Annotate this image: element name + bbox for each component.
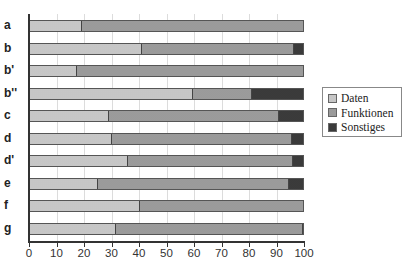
bar-segment-sonstiges bbox=[278, 111, 303, 121]
bar-segment-funktionen bbox=[115, 224, 302, 234]
bar-segment-funktionen bbox=[141, 44, 294, 54]
legend-swatch-daten-icon bbox=[328, 94, 337, 103]
category-label: f bbox=[4, 198, 22, 212]
bar-segment-funktionen bbox=[127, 156, 292, 166]
bar-segment-funktionen bbox=[76, 66, 303, 76]
x-tick-label: 10 bbox=[42, 247, 72, 259]
bar-c bbox=[29, 110, 304, 122]
bar-segment-daten bbox=[30, 21, 81, 31]
bar-segment-funktionen bbox=[108, 111, 279, 121]
legend-label: Daten bbox=[341, 92, 368, 104]
bar-f bbox=[29, 200, 304, 212]
bar-segment-daten bbox=[30, 179, 97, 189]
bar-segment-sonstiges bbox=[293, 44, 303, 54]
x-tick-label: 90 bbox=[262, 247, 292, 259]
bar-segment-daten bbox=[30, 134, 111, 144]
x-tick-label: 70 bbox=[207, 247, 237, 259]
bar-segment-sonstiges bbox=[302, 224, 303, 234]
x-tick-label: 100 bbox=[289, 247, 319, 259]
bar-dp bbox=[29, 155, 304, 167]
category-label: b bbox=[4, 41, 22, 55]
category-label: a bbox=[4, 18, 22, 32]
category-label: e bbox=[4, 176, 22, 190]
legend-item-funktionen: Funktionen bbox=[328, 106, 401, 121]
bar-g bbox=[29, 223, 304, 235]
x-tick-label: 0 bbox=[14, 247, 44, 259]
legend-item-daten: Daten bbox=[328, 91, 401, 106]
category-label: b'' bbox=[4, 86, 22, 100]
bar-b bbox=[29, 43, 304, 55]
legend-swatch-funktionen-icon bbox=[328, 108, 337, 117]
bar-segment-daten bbox=[30, 156, 127, 166]
bar-segment-daten bbox=[30, 89, 192, 99]
bar-d bbox=[29, 133, 304, 145]
stacked-bar-chart: 0102030405060708090100 Daten Funktionen … bbox=[0, 0, 410, 271]
y-axis bbox=[28, 14, 30, 242]
bar-segment-sonstiges bbox=[288, 179, 303, 189]
bar-segment-daten bbox=[30, 224, 115, 234]
x-tick-label: 80 bbox=[234, 247, 264, 259]
bar-segment-daten bbox=[30, 66, 76, 76]
bar-segment-funktionen bbox=[97, 179, 288, 189]
bar-segment-sonstiges bbox=[251, 89, 303, 99]
legend-swatch-sonstiges-icon bbox=[328, 123, 337, 132]
bar-segment-sonstiges bbox=[291, 134, 303, 144]
category-label: b' bbox=[4, 63, 22, 77]
x-tick-label: 20 bbox=[69, 247, 99, 259]
x-tick-label: 30 bbox=[97, 247, 127, 259]
x-tick-label: 40 bbox=[124, 247, 154, 259]
legend: Daten Funktionen Sonstiges bbox=[322, 87, 402, 137]
legend-label: Funktionen bbox=[341, 107, 393, 119]
bar-segment-daten bbox=[30, 44, 141, 54]
bar-bp bbox=[29, 65, 304, 77]
bar-segment-funktionen bbox=[111, 134, 291, 144]
bar-segment-funktionen bbox=[139, 201, 303, 211]
bar-bpp bbox=[29, 88, 304, 100]
bar-segment-daten bbox=[30, 201, 139, 211]
bar-segment-daten bbox=[30, 111, 108, 121]
category-label: g bbox=[4, 221, 22, 235]
bar-e bbox=[29, 178, 304, 190]
category-label: d bbox=[4, 131, 22, 145]
x-tick-label: 50 bbox=[152, 247, 182, 259]
legend-item-sonstiges: Sonstiges bbox=[328, 120, 401, 135]
legend-label: Sonstiges bbox=[341, 121, 385, 133]
bar-segment-funktionen bbox=[192, 89, 251, 99]
bar-a bbox=[29, 20, 304, 32]
bar-segment-sonstiges bbox=[292, 156, 303, 166]
x-tick-label: 60 bbox=[179, 247, 209, 259]
category-label: c bbox=[4, 108, 22, 122]
bar-segment-funktionen bbox=[81, 21, 303, 31]
category-label: d' bbox=[4, 153, 22, 167]
